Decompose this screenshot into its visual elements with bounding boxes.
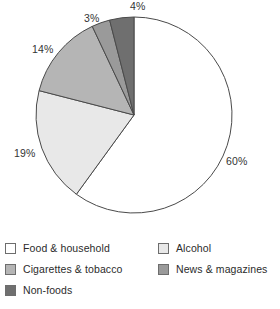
pie-slices-group (36, 17, 232, 213)
legend-column-right: AlcoholNews & magazines (158, 238, 278, 280)
chart-legend: Food & householdCigarettes & tobaccoNon-… (0, 238, 280, 309)
legend-swatch-icon (5, 243, 16, 254)
legend-item-label: News & magazines (176, 264, 267, 275)
legend-item-cigarettes-tobacco[interactable]: Cigarettes & tobacco (5, 259, 155, 280)
legend-item-food-household[interactable]: Food & household (5, 238, 155, 259)
legend-swatch-icon (158, 243, 169, 254)
pie-value-label: 14% (32, 44, 53, 55)
legend-item-label: Food & household (23, 243, 110, 254)
legend-swatch-icon (5, 285, 16, 296)
legend-item-label: Cigarettes & tobacco (23, 264, 122, 275)
legend-item-label: Non-foods (23, 285, 72, 296)
legend-swatch-icon (5, 264, 16, 275)
pie-value-label: 4% (130, 1, 145, 12)
legend-item-label: Alcohol (176, 243, 211, 254)
legend-swatch-icon (158, 264, 169, 275)
legend-item-alcohol[interactable]: Alcohol (158, 238, 278, 259)
pie-value-label: 19% (14, 148, 35, 159)
legend-item-non-foods[interactable]: Non-foods (5, 280, 155, 301)
legend-item-news-magazines[interactable]: News & magazines (158, 259, 278, 280)
pie-value-label: 3% (84, 13, 99, 24)
pie-value-label: 60% (226, 156, 247, 167)
pie-chart-figure: 60%19%14%3%4% Food & householdCigarettes… (0, 0, 280, 309)
pie-chart-svg (0, 0, 280, 236)
legend-column-left: Food & householdCigarettes & tobaccoNon-… (5, 238, 155, 301)
chart-plot-area: 60%19%14%3%4% (0, 0, 280, 236)
